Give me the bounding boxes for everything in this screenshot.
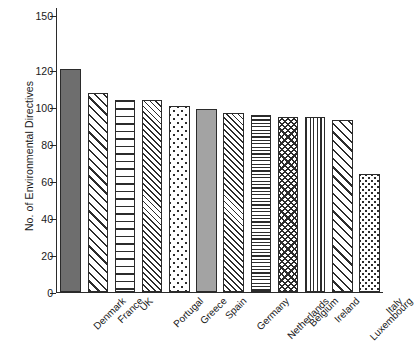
y-axis-title: No. of Environmental Directives (23, 41, 35, 271)
bar (60, 69, 81, 292)
y-axis-tick-label: 120 (35, 66, 53, 77)
y-axis-tick-label: 100 (35, 103, 53, 114)
bar (305, 117, 326, 292)
bar-slot (278, 8, 299, 292)
y-axis-tick-label: 20 (41, 251, 53, 262)
bar (359, 174, 380, 292)
x-axis-category-label: Portugal (172, 296, 205, 329)
bar (88, 93, 109, 292)
bar (223, 113, 244, 292)
bar (278, 117, 299, 292)
bar-slot (60, 8, 81, 292)
bar-slot (223, 8, 244, 292)
bar-slot (196, 8, 217, 292)
x-axis-category-label: Germany (255, 296, 291, 332)
bar-slot (88, 8, 109, 292)
bar-slot (115, 8, 136, 292)
bar-series (57, 8, 383, 292)
bar-slot (305, 8, 326, 292)
y-axis-tick-label: 40 (41, 214, 53, 225)
x-axis-category-label: Spain (223, 296, 248, 321)
y-axis-tick-label: 80 (41, 140, 53, 151)
y-axis-tick-label: 0 (47, 288, 53, 299)
bar-slot (142, 8, 163, 292)
bar-slot (332, 8, 353, 292)
bar-slot (359, 8, 380, 292)
bar (115, 100, 136, 292)
x-axis-line (56, 292, 383, 293)
bar-slot (251, 8, 272, 292)
bar (251, 115, 272, 292)
bar (142, 100, 163, 292)
bar-slot (169, 8, 190, 292)
bar (169, 106, 190, 293)
bar (332, 120, 353, 292)
x-axis-category-labels: DenmarkFranceUKPortugalGreeceSpainGerman… (57, 296, 384, 356)
y-axis-tick-label: 60 (41, 177, 53, 188)
bar (196, 109, 217, 292)
plot-area: 020406080100120150 (56, 8, 383, 293)
y-axis-tick-label: 150 (35, 11, 53, 22)
